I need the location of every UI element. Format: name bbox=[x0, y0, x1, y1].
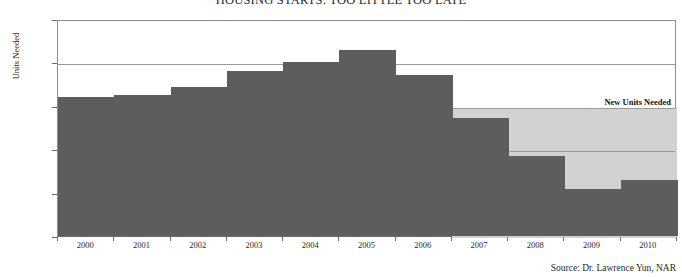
x-tick-mark bbox=[57, 237, 58, 241]
x-tick-mark bbox=[338, 237, 339, 241]
x-tick-mark bbox=[620, 237, 621, 241]
source-note: Source: Dr. Lawrence Yun, NAR bbox=[551, 263, 676, 273]
x-tick-mark bbox=[451, 237, 452, 241]
y-axis-title: Units Needed bbox=[11, 16, 21, 96]
x-axis-labels: 2000200120022003200420052006200720082009… bbox=[57, 240, 676, 256]
bar-2009 bbox=[564, 189, 621, 236]
x-tick-label-2000: 2000 bbox=[57, 240, 113, 256]
bar-2010 bbox=[621, 180, 678, 236]
bar-2002 bbox=[171, 87, 228, 236]
x-tick-label-2009: 2009 bbox=[563, 240, 619, 256]
new-units-needed-label: New Units Needed bbox=[604, 97, 671, 107]
x-tick-label-2010: 2010 bbox=[620, 240, 676, 256]
bar-2001 bbox=[114, 95, 171, 236]
bar-2004 bbox=[283, 62, 340, 236]
x-tick-label-2008: 2008 bbox=[507, 240, 563, 256]
x-tick-mark bbox=[507, 237, 508, 241]
x-tick-label-2005: 2005 bbox=[338, 240, 394, 256]
x-tick-label-2001: 2001 bbox=[113, 240, 169, 256]
bar-2000 bbox=[58, 97, 115, 236]
x-tick-label-2002: 2002 bbox=[170, 240, 226, 256]
x-axis-tick-marks bbox=[0, 237, 682, 242]
bar-series-layer bbox=[58, 21, 675, 236]
x-tick-mark bbox=[170, 237, 171, 241]
x-tick-mark bbox=[282, 237, 283, 241]
x-tick-label-2003: 2003 bbox=[226, 240, 282, 256]
bar-2003 bbox=[227, 71, 284, 236]
plot-area: New Units Needed bbox=[57, 20, 676, 237]
bar-2008 bbox=[508, 156, 565, 236]
chart-title: HOUSING STARTS: TOO LITTLE TOO LATE bbox=[0, 0, 682, 8]
bar-2005 bbox=[339, 50, 396, 236]
x-tick-label-2006: 2006 bbox=[395, 240, 451, 256]
bar-2006 bbox=[396, 75, 453, 236]
bar-2007 bbox=[452, 118, 509, 236]
x-tick-label-2004: 2004 bbox=[282, 240, 338, 256]
x-tick-mark bbox=[676, 237, 677, 241]
x-tick-label-2007: 2007 bbox=[451, 240, 507, 256]
x-tick-mark bbox=[113, 237, 114, 241]
x-tick-mark bbox=[226, 237, 227, 241]
x-tick-mark bbox=[395, 237, 396, 241]
x-tick-mark bbox=[563, 237, 564, 241]
